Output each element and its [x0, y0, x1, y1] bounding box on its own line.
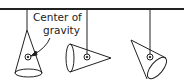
cone-1-base	[15, 69, 42, 77]
cone-3-base	[144, 54, 170, 81]
cone-3-side-top	[131, 40, 166, 58]
cone-2-cg-dot	[86, 56, 88, 58]
diagram-canvas	[0, 0, 184, 81]
cone-3	[131, 9, 170, 81]
cone-1-side-right	[27, 30, 42, 73]
cone-2-side-bottom	[70, 58, 111, 72]
cone-1-side-left	[15, 30, 27, 73]
cone-2-base	[66, 44, 74, 72]
cone-3-cg-dot	[149, 56, 151, 58]
cone-1-cg-dot	[27, 56, 29, 58]
cg-label-line1: Center of	[33, 11, 82, 23]
cone-3-side-bottom	[131, 40, 147, 79]
cone-2-side-top	[70, 44, 111, 58]
cg-label-line2: gravity	[43, 24, 80, 36]
arrow-head	[31, 51, 37, 56]
cg-arrow	[31, 38, 50, 56]
center-of-gravity-diagram: Center of gravity	[0, 0, 184, 81]
